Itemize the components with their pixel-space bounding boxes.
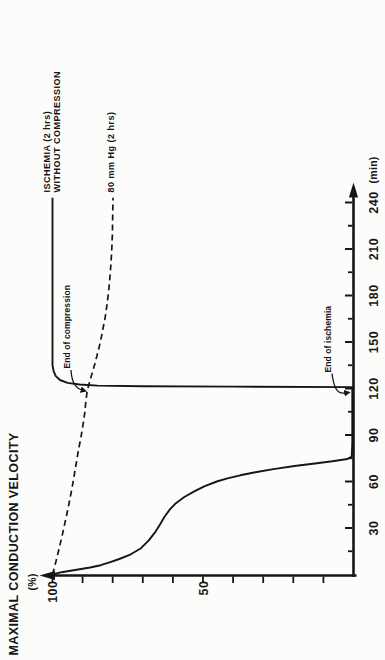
solid-curve-ischemia [52, 197, 352, 574]
y-axis-title: MAXIMAL CONDUCTION VELOCITY [7, 432, 21, 655]
dashed-curve-label: 80 mm Hg (2 hrs) [106, 111, 116, 192]
rotated-figure: 30609012015018021024050100 MAXIMAL CONDU… [0, 0, 385, 660]
time-axis-arrowhead [348, 182, 357, 197]
solid-curve-label-line2: WITHOUT COMPRESSION [52, 71, 62, 193]
end-of-ischemia-label: End of ischemia [323, 305, 333, 372]
x-tick-label: 120 [366, 377, 380, 399]
x-tick-label: 180 [366, 284, 380, 306]
conduction-velocity-chart: 30609012015018021024050100 MAXIMAL CONDU… [0, 0, 385, 660]
x-tick-label: 240 [366, 191, 380, 213]
solid-curve-label-line1: ISCHEMIA (2 hrs) [41, 110, 51, 192]
x-tick-label: 30 [366, 520, 380, 535]
figure-page: 30609012015018021024050100 MAXIMAL CONDU… [0, 0, 385, 660]
y-tick-label: 100 [46, 580, 60, 602]
end-of-compression-arrow [71, 370, 82, 390]
x-tick-label: 60 [366, 474, 380, 489]
x-tick-label: 210 [366, 237, 380, 259]
x-tick-label: 90 [366, 427, 380, 442]
axes-layer: 30609012015018021024050100 [39, 182, 380, 602]
x-axis-unit-label: (min) [366, 156, 378, 183]
end-of-compression-label: End of compression [62, 284, 72, 368]
y-axis-unit-label: (%) [25, 573, 37, 590]
y-tick-label: 50 [196, 580, 210, 595]
x-tick-label: 150 [366, 330, 380, 352]
curves-layer [52, 197, 352, 574]
end-of-ischemia-arrow [332, 373, 346, 393]
